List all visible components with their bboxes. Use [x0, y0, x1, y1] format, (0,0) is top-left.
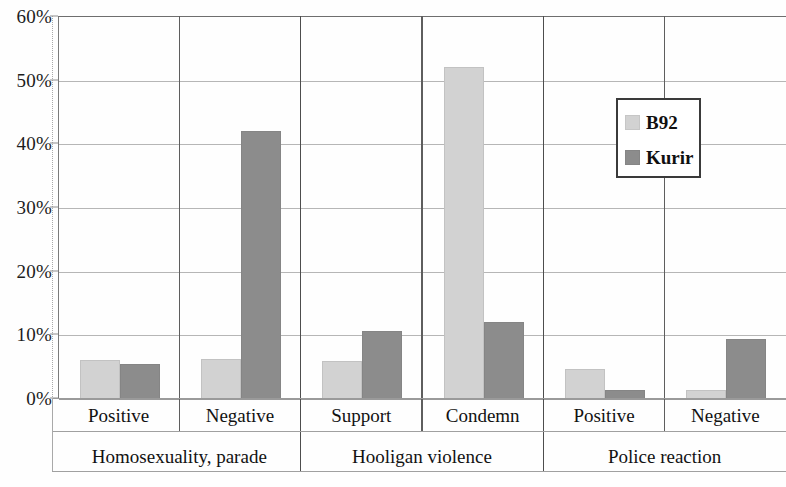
- category-label: Positive: [58, 406, 179, 425]
- bar-b92: [322, 361, 362, 398]
- bar-kurir: [241, 131, 281, 398]
- category-label: Negative: [665, 406, 786, 425]
- y-axis-tick-mark: [50, 16, 58, 17]
- bar-b92: [201, 359, 241, 398]
- y-axis-tick-label: 40%: [0, 134, 52, 153]
- legend-label-kurir: Kurir: [646, 148, 694, 167]
- category-separator: [300, 16, 302, 471]
- bar-kurir: [605, 390, 645, 398]
- y-axis-tick-label: 20%: [0, 261, 52, 280]
- category-separator: [664, 16, 666, 431]
- bar-kurir: [484, 322, 524, 398]
- category-label: Condemn: [422, 406, 543, 425]
- bar-kurir: [726, 339, 766, 398]
- y-axis-tick-label: 0%: [0, 389, 52, 408]
- category-separator: [179, 16, 181, 431]
- category-label: Negative: [179, 406, 300, 425]
- category-separator: [421, 16, 423, 431]
- bar-b92: [444, 67, 484, 398]
- y-axis-tick-label: 50%: [0, 70, 52, 89]
- bar-kurir: [362, 331, 402, 398]
- y-axis-tick-mark: [50, 79, 58, 80]
- x-axis-band-left-border: [52, 398, 53, 471]
- y-axis-tick-mark: [50, 143, 58, 144]
- category-label: Positive: [543, 406, 664, 425]
- category-label: Support: [301, 406, 422, 425]
- x-axis-band-line: [52, 398, 786, 399]
- x-axis-band-line: [52, 471, 786, 472]
- x-axis-band-line: [52, 431, 786, 432]
- legend-entry-kurir: Kurir: [625, 148, 694, 167]
- legend-swatch-b92-icon: [625, 115, 640, 130]
- bar-b92: [80, 360, 120, 398]
- y-axis-tick-mark: [50, 334, 58, 335]
- bar-b92: [686, 390, 726, 398]
- group-label: Hooligan violence: [301, 447, 544, 466]
- y-axis-tick-label: 10%: [0, 325, 52, 344]
- y-axis-tick-label: 60%: [0, 7, 52, 26]
- y-axis-tick-mark: [50, 207, 58, 208]
- y-axis-tick-mark: [50, 270, 58, 271]
- bar-b92: [565, 369, 605, 398]
- legend-label-b92: B92: [646, 113, 678, 132]
- bar-kurir: [120, 364, 160, 398]
- category-separator: [543, 16, 545, 471]
- group-label: Homosexuality, parade: [58, 447, 301, 466]
- group-label: Police reaction: [543, 447, 786, 466]
- y-axis-tick-label: 30%: [0, 198, 52, 217]
- legend-entry-b92: B92: [625, 113, 678, 132]
- bar-chart: 0%10%20%30%40%50%60% PositiveNegativeSup…: [0, 0, 786, 487]
- legend: B92 Kurir: [616, 98, 701, 178]
- legend-swatch-kurir-icon: [625, 150, 640, 165]
